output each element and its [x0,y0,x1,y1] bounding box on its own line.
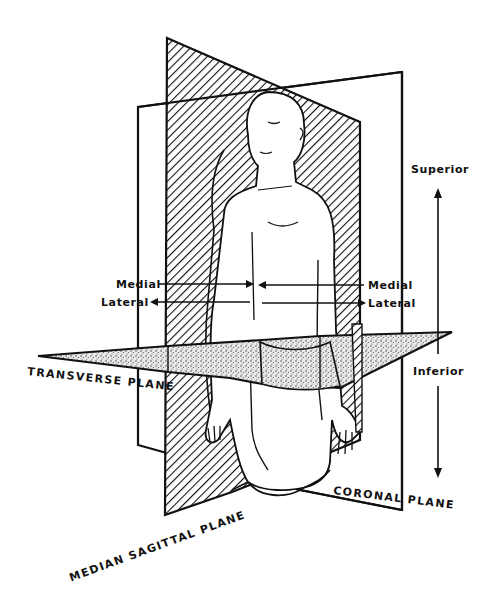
medial-label-left: Medial [116,279,161,290]
inferior-label: Inferior [413,366,464,377]
lateral-label-left: Lateral [101,297,149,308]
arrow-down-icon [434,468,442,478]
anatomical-planes-diagram: Superior Inferior Medial Lateral Medial … [0,0,497,606]
lateral-label-right: Lateral [368,298,416,309]
diagram-canvas [0,0,497,606]
superior-label: Superior [411,164,469,175]
arrow-up-icon [434,188,442,198]
medial-label-right: Medial [368,280,413,291]
